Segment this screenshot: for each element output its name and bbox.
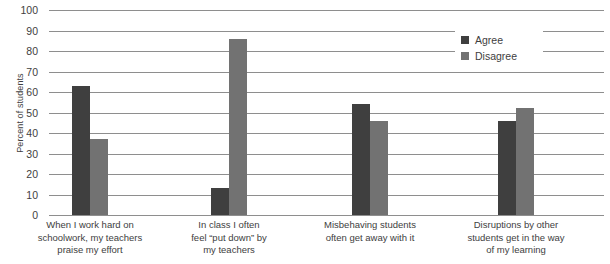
y-tick-label-60: 60 bbox=[0, 87, 38, 98]
gridline-70 bbox=[49, 72, 604, 73]
x-axis-label-line: praise my effort bbox=[14, 244, 166, 257]
x-axis-label-line: schoolwork, my teachers bbox=[14, 232, 166, 245]
x-axis-label-group-4: Disruptions by otherstudents get in the … bbox=[440, 219, 592, 257]
legend-label-agree: Agree bbox=[475, 35, 503, 46]
gridline-60 bbox=[49, 92, 604, 93]
bar-disagree-group-3 bbox=[370, 121, 388, 215]
bar-disagree-group-4 bbox=[516, 108, 534, 215]
legend-swatch-disagree-icon bbox=[461, 52, 469, 60]
x-axis-label-line: In class I often bbox=[153, 219, 305, 232]
bar-disagree-group-1 bbox=[90, 139, 108, 215]
x-axis-label-line: often get away with it bbox=[294, 232, 446, 245]
x-axis-label-line: When I work hard on bbox=[14, 219, 166, 232]
y-tick-label-50: 50 bbox=[0, 108, 38, 119]
bar-agree-group-1 bbox=[72, 86, 90, 215]
y-tick-label-10: 10 bbox=[0, 190, 38, 201]
bar-agree-group-3 bbox=[352, 104, 370, 215]
x-axis-label-line: of my learning bbox=[440, 244, 592, 257]
x-axis-label-group-1: When I work hard onschoolwork, my teache… bbox=[14, 219, 166, 257]
y-tick-label-40: 40 bbox=[0, 128, 38, 139]
gridline-0 bbox=[49, 215, 604, 216]
y-tick-label-20: 20 bbox=[0, 169, 38, 180]
y-tick-label-100: 100 bbox=[0, 5, 38, 16]
x-axis-label-group-3: Misbehaving studentsoften get away with … bbox=[294, 219, 446, 244]
x-axis-label-line: Misbehaving students bbox=[294, 219, 446, 232]
gridline-100 bbox=[49, 10, 604, 11]
bar-chart: Percent of students 10090807060504030201… bbox=[0, 0, 610, 264]
bar-disagree-group-2 bbox=[229, 39, 247, 215]
bar-agree-group-2 bbox=[211, 188, 229, 215]
x-axis-label-line: Disruptions by other bbox=[440, 219, 592, 232]
x-axis-category-labels: When I work hard onschoolwork, my teache… bbox=[0, 219, 610, 264]
y-tick-label-70: 70 bbox=[0, 67, 38, 78]
x-axis-label-line: my teachers bbox=[153, 244, 305, 257]
legend-label-disagree: Disagree bbox=[475, 51, 517, 62]
legend-swatch-agree-icon bbox=[461, 36, 469, 44]
bar-agree-group-4 bbox=[498, 121, 516, 215]
y-tick-label-30: 30 bbox=[0, 149, 38, 160]
legend-item-disagree: Disagree bbox=[461, 49, 541, 63]
x-axis-label-line: students get in the way bbox=[440, 232, 592, 245]
y-tick-label-80: 80 bbox=[0, 46, 38, 57]
y-tick-label-90: 90 bbox=[0, 26, 38, 37]
legend: Agree Disagree bbox=[455, 31, 543, 64]
legend-item-agree: Agree bbox=[461, 33, 541, 47]
x-axis-label-line: feel “put down” by bbox=[153, 232, 305, 245]
x-axis-label-group-2: In class I oftenfeel “put down” bymy tea… bbox=[153, 219, 305, 257]
